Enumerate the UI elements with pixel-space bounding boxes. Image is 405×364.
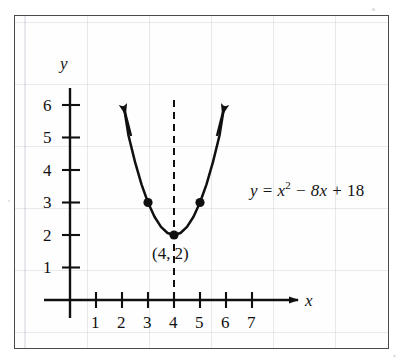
x-tick-label-7: 7 [247,314,256,331]
equation-exponent: 2 [285,179,291,191]
x-axis-label: x [305,292,313,309]
equation-bx-term: 8x [311,181,327,200]
equation-lhs: y [250,181,258,200]
equation-equals: = [263,181,273,200]
marked-point-vertex-4-2 [169,230,178,239]
y-tick-label-2: 2 [43,227,52,244]
y-tick-label-6: 6 [43,97,52,114]
y-tick-label-1: 1 [43,259,52,276]
x-tick-label-3: 3 [143,314,152,331]
graph-figure: y x 6 5 4 3 2 1 1 2 3 4 5 6 7 (4,2) y=x2… [0,0,405,364]
vertex-y-value: 2 [174,244,183,263]
vertex-comma: , [166,244,170,263]
equation-minus-sign: − [296,181,306,200]
marked-point-5-3 [195,198,204,207]
y-axis [62,88,80,318]
x-tick-label-2: 2 [117,314,126,331]
x-tick-label-5: 5 [195,314,204,331]
vertex-label: (4,2) [152,245,189,262]
y-tick-label-4: 4 [43,162,52,179]
x-axis [44,292,298,308]
y-tick-label-5: 5 [43,129,52,146]
x-tick-label-6: 6 [221,314,230,331]
vertex-close-paren: ) [183,244,189,263]
equation-plus-sign: + [332,181,342,200]
equation-label: y=x2−8x+18 [250,182,364,199]
y-tick-label-3: 3 [43,194,52,211]
y-axis-label: y [60,55,68,72]
vertex-x-value: 4 [158,244,167,263]
x-tick-label-4: 4 [169,314,178,331]
x-tick-label-1: 1 [91,314,100,331]
equation-constant: 18 [347,181,364,200]
marked-point-3-3 [143,198,152,207]
